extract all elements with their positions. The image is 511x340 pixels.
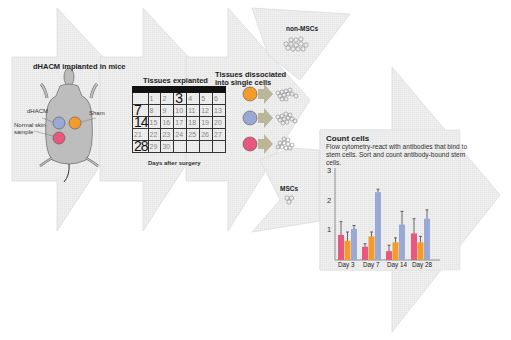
- calendar-day: 8: [148, 105, 161, 117]
- calendar-day: [200, 141, 213, 153]
- calendar-day: 6: [213, 93, 226, 105]
- x-label-day28: Day 28: [412, 261, 432, 268]
- calendar-day: 17: [174, 117, 187, 129]
- calendar-day: 11: [187, 105, 200, 117]
- calendar-day: [187, 141, 200, 153]
- label-dhacm: dHACM: [27, 108, 48, 114]
- calendar-day: 28: [133, 141, 149, 153]
- x-label-day7: Day 7: [363, 261, 379, 268]
- dissociation-arrows: [258, 84, 273, 154]
- calendar-day: [174, 141, 187, 153]
- chart-bar: [362, 247, 368, 260]
- non-msc-label: non-MSCs: [286, 25, 318, 32]
- calendar-day: 12: [200, 105, 213, 117]
- calendar-day: 20: [213, 117, 226, 129]
- chart-bar: [393, 242, 399, 260]
- calendar-day: [213, 141, 226, 153]
- calendar-week: 14151617181920: [133, 117, 226, 129]
- y-tick-3: 3: [327, 166, 331, 175]
- y-tick-1: 1: [327, 225, 331, 234]
- calendar-day: 13: [213, 105, 226, 117]
- chart-bar: [411, 233, 417, 260]
- label-normal-skin: Normal skin sample: [14, 122, 46, 136]
- chart-bar: [386, 251, 392, 260]
- chart-bar: [351, 229, 357, 260]
- step-implant-title: dHACM implanted in mice: [33, 62, 126, 71]
- calendar-day: 4: [187, 93, 200, 105]
- calendar-day: 1: [148, 93, 161, 105]
- calendar: 1234567891011121314151617181920212223242…: [132, 86, 226, 153]
- calendar-week: 282930: [133, 141, 226, 153]
- calendar-day: 22: [148, 129, 161, 141]
- chart-bar: [345, 241, 351, 260]
- chart-bar: [375, 192, 381, 260]
- calendar-day: 27: [213, 129, 226, 141]
- calendar-day: 5: [200, 93, 213, 105]
- calendar-day: 10: [174, 105, 187, 117]
- calendar-day: 30: [161, 141, 174, 153]
- process-arrows: [0, 0, 511, 340]
- chart-bar: [418, 242, 424, 260]
- dissociated-tissues: [243, 87, 257, 151]
- step-dissociate-title-2: into single cells: [215, 78, 271, 87]
- calendar-caption: Days after surgery: [148, 160, 201, 166]
- calendar-day: 29: [148, 141, 161, 153]
- calendar-week: 123456: [133, 93, 226, 105]
- calendar-day: 18: [187, 117, 200, 129]
- chart-bar: [399, 225, 405, 260]
- chart-bar: [424, 219, 430, 260]
- calendar-day: 23: [161, 129, 174, 141]
- calendar-day: 9: [161, 105, 174, 117]
- calendar-day: 15: [148, 117, 161, 129]
- label-sham: Sham: [89, 110, 105, 116]
- step-explant-title: Tissues explanted: [143, 76, 208, 85]
- x-label-day14: Day 14: [387, 261, 407, 268]
- calendar-day: 25: [187, 129, 200, 141]
- calendar-day: 24: [174, 129, 187, 141]
- chart-bar: [369, 236, 375, 260]
- calendar-day: 2: [161, 93, 174, 105]
- calendar-day: 14: [133, 117, 149, 129]
- step-count-description: Flow cytometry-react with antibodies tha…: [326, 143, 476, 167]
- calendar-day: 16: [161, 117, 174, 129]
- y-tick-2: 2: [327, 196, 331, 205]
- calendar-day: 3: [174, 93, 187, 105]
- x-label-day3: Day 3: [338, 261, 354, 268]
- calendar-day: 19: [200, 117, 213, 129]
- chart-bar: [338, 235, 344, 260]
- calendar-day: 26: [200, 129, 213, 141]
- msc-label: MSCs: [280, 185, 298, 192]
- step-count-title: Count cells: [326, 134, 369, 143]
